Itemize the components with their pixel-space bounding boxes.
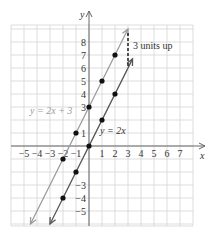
x-tick-label: −5 xyxy=(19,148,30,159)
data-point xyxy=(99,78,104,83)
data-point xyxy=(60,156,65,161)
data-point xyxy=(112,52,117,57)
line-label-shifted: y = 2x + 3 xyxy=(29,105,72,116)
y-tick-label: 3 xyxy=(81,102,86,113)
data-point xyxy=(73,130,78,135)
y-axis-label: y xyxy=(79,9,85,20)
y-tick-label: 1 xyxy=(81,128,86,139)
x-tick-label: 5 xyxy=(152,148,157,159)
line-label-base: y = 2x xyxy=(99,125,126,136)
data-point xyxy=(99,117,104,122)
data-point xyxy=(60,195,65,200)
y-tick-label: 7 xyxy=(81,50,86,61)
x-tick-label: 4 xyxy=(139,148,144,159)
y-tick-label: 4 xyxy=(81,89,86,100)
y-tick-label: 6 xyxy=(81,63,86,74)
axes xyxy=(11,11,205,226)
x-tick-label: 3 xyxy=(126,148,131,159)
x-tick-label: 7 xyxy=(178,148,183,159)
y-tick-label: 5 xyxy=(81,76,86,87)
x-axis-label: x xyxy=(199,150,205,161)
y-tick-label: −3 xyxy=(75,180,86,191)
y-tick-label: −5 xyxy=(75,206,86,217)
x-tick-label: 1 xyxy=(100,148,105,159)
x-tick-label: −4 xyxy=(32,148,43,159)
x-tick-label: 2 xyxy=(113,148,118,159)
x-tick-label: −3 xyxy=(45,148,56,159)
x-tick-label: 6 xyxy=(165,148,170,159)
chart: −5−4−3−2−11234567−5−4−31345678 x y y = 2… xyxy=(0,0,218,242)
data-point xyxy=(73,169,78,174)
x-tick-label: −1 xyxy=(71,148,82,159)
data-point xyxy=(86,104,91,109)
shift-annotation-label: 3 units up xyxy=(133,40,172,51)
data-point xyxy=(86,143,91,148)
data-point xyxy=(112,91,117,96)
y-tick-label: −4 xyxy=(75,193,86,204)
y-tick-label: 8 xyxy=(81,37,86,48)
